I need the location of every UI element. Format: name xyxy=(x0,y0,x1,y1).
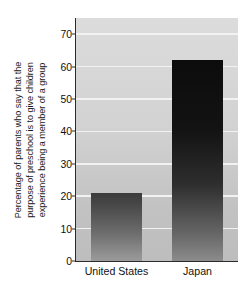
y-axis-line xyxy=(75,18,76,262)
bar-united-states xyxy=(91,193,142,261)
x-axis-line xyxy=(75,261,238,262)
y-axis-title-line-2: purpose of preschool is to give children xyxy=(24,62,36,218)
bar-chart: Percentage of parents who say that the p… xyxy=(0,0,247,288)
y-axis-tick-mark xyxy=(72,228,76,229)
y-axis-title-line-3: experience being a member of a group xyxy=(36,63,48,217)
y-axis-tick-label: 30 xyxy=(60,158,72,169)
x-axis-tick-label: United States xyxy=(85,265,149,277)
y-axis-tick-mark xyxy=(72,163,76,164)
y-axis-tick-label: 50 xyxy=(60,94,72,105)
y-axis-tick-label: 20 xyxy=(60,191,72,202)
y-axis-tick-mark xyxy=(72,66,76,67)
y-axis-tick-mark xyxy=(72,261,76,262)
y-axis-tick-label: 40 xyxy=(60,126,72,137)
x-axis-tick-labels: United StatesJapan xyxy=(76,265,238,285)
y-axis-tick-labels: 010203040506070 xyxy=(52,0,72,288)
y-axis-tick-label: 60 xyxy=(60,61,72,72)
y-axis-title-line-1: Percentage of parents who say that the xyxy=(12,62,24,218)
gridline xyxy=(76,33,238,35)
y-axis-tick-label: 10 xyxy=(60,223,72,234)
y-axis-tick-mark xyxy=(72,99,76,100)
plot-area xyxy=(76,18,238,261)
y-axis-title: Percentage of parents who say that the p… xyxy=(10,18,50,262)
x-axis-tick-label: Japan xyxy=(183,265,212,277)
y-axis-tick-mark xyxy=(72,34,76,35)
y-axis-tick-mark xyxy=(72,131,76,132)
y-axis-tick-label: 70 xyxy=(60,29,72,40)
y-axis-tick-mark xyxy=(72,196,76,197)
bar-japan xyxy=(172,60,223,261)
